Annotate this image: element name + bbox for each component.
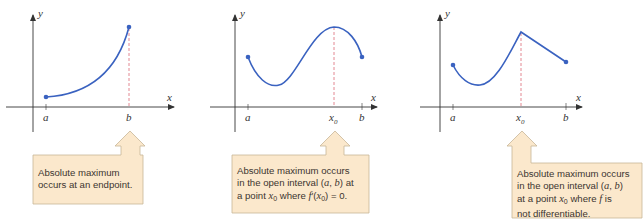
endpoint-a (44, 95, 49, 100)
endpoint-b (564, 60, 569, 65)
tick-label-x0: x0 (328, 111, 338, 126)
x-axis-label: x (575, 91, 581, 103)
callout-3-line-3: at a point x0 where f is (517, 193, 630, 208)
callout-2-text: Absolute maximum occurs in the open inte… (237, 165, 354, 205)
tick-label-b: b (126, 111, 132, 123)
x-axis-label: x (166, 91, 172, 103)
curve (248, 27, 362, 86)
callout-2-line-3: a point x0 where f′(x0) = 0. (237, 190, 354, 205)
curve (453, 32, 566, 85)
tick-label-b: b (563, 111, 569, 123)
endpoint-b (360, 55, 365, 60)
callout-1-text: Absolute maximum occurs at an endpoint. (38, 167, 132, 192)
callout-3-line-1: Absolute maximum occurs (517, 168, 630, 180)
callout-2-line-1: Absolute maximum occurs (237, 165, 354, 177)
callout-3-line-2: in the open interval (a, b) (517, 180, 630, 192)
tick-label-a: a (450, 111, 456, 123)
callout-2-line-2: in the open interval (a, b) at (237, 177, 354, 189)
tick-label-b: b (359, 111, 365, 123)
callout-3-text: Absolute maximum occurs in the open inte… (517, 168, 630, 220)
tick-label-a: a (43, 111, 49, 123)
endpoint-a (451, 63, 456, 68)
endpoint-a (246, 55, 251, 60)
x-axis-label: x (370, 91, 376, 103)
callout-3-line-4: not differentiable. (517, 208, 630, 220)
tick-label-x0: x0 (515, 111, 525, 126)
y-axis-label: y (444, 7, 450, 19)
tick-label-a: a (245, 111, 251, 123)
y-axis-label: y (239, 7, 245, 19)
callout-1-line-2: occurs at an endpoint. (38, 179, 132, 191)
callout-1-line-1: Absolute maximum (38, 167, 132, 179)
y-axis-label: y (37, 7, 43, 19)
endpoint-b-max (127, 25, 132, 30)
curve (46, 27, 129, 97)
